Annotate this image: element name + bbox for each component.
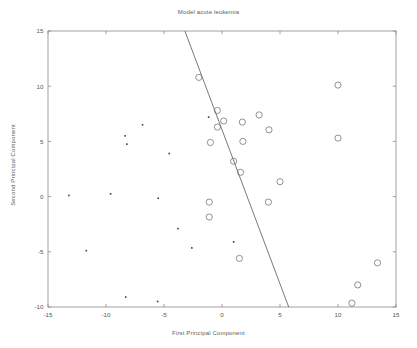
series-group-circle [196,74,381,306]
x-tick-label: 15 [393,311,400,318]
data-point-dot [126,143,128,145]
x-tick-label: -5 [161,311,167,318]
data-point-dot [191,247,193,249]
data-point-circle [266,127,272,133]
data-point-circle [256,112,262,118]
data-point-circle [206,214,212,220]
y-axis-label: Second Principal Component [10,90,16,240]
data-point-dot [177,228,179,230]
scatter-plot: -15-10-5051015-10-5051015 [0,0,417,348]
data-point-circle [349,300,355,306]
data-point-circle [221,118,227,124]
x-axis-label: First Principal Component [0,330,417,336]
data-point-dot [125,296,127,298]
figure-canvas: Model acute leukemia -15-10-5051015-10-5… [0,0,417,348]
data-point-dot [233,241,235,243]
data-point-dot [110,193,112,195]
data-point-dot [168,153,170,155]
x-tick-label: 0 [220,311,224,318]
data-point-dot [208,116,210,118]
y-tick-label: 10 [37,83,44,90]
data-point-circle [335,135,341,141]
data-point-circle [355,282,361,288]
y-tick-label: 5 [40,138,44,145]
data-point-circle [239,119,245,125]
data-point-circle [374,260,380,266]
data-point-dot [157,301,159,303]
data-point-circle [335,82,341,88]
plot-frame [48,31,396,307]
data-point-circle [277,179,283,185]
x-tick-label: 5 [278,311,282,318]
data-point-circle [265,199,271,205]
data-point-dot [124,135,126,137]
data-point-circle [196,74,202,80]
data-point-dot [157,197,159,199]
y-tick-label: 0 [40,193,44,200]
data-point-circle [206,199,212,205]
y-tick-label: 15 [37,27,44,34]
plot-content [68,31,380,307]
decision-boundary [185,31,289,307]
data-point-dot [68,195,70,197]
data-point-dot [85,250,87,252]
data-point-circle [207,139,213,145]
y-tick-label: -5 [38,248,44,255]
data-point-dot [142,124,144,126]
data-point-circle [214,124,220,130]
series-group-dot [68,116,234,302]
x-tick-label: 10 [335,311,342,318]
x-tick-label: -15 [44,311,54,318]
data-point-circle [240,138,246,144]
data-point-circle [236,255,242,261]
x-tick-label: -10 [102,311,112,318]
y-tick-label: -10 [35,303,45,310]
